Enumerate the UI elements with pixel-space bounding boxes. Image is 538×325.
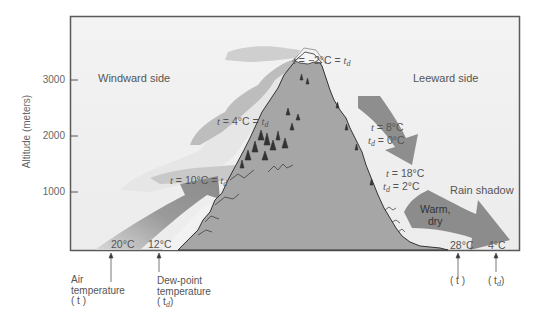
warm-dry-label-line2: dry — [428, 215, 443, 227]
leeward-upper-t-label: t = 8°C — [371, 121, 404, 134]
windward-side-label: Windward side — [98, 72, 170, 84]
windward-base-dew-point: 12°C — [148, 238, 171, 250]
level-2000-temp-label: t = 4°C = td — [217, 115, 268, 131]
air-temp-callout: Air temperature ( t ) — [71, 275, 125, 307]
leeward-lower-t-label: t = 18°C — [386, 167, 424, 180]
leeward-base-dew-point: 4°C — [488, 239, 506, 251]
rain-shadow-diagram: Altitude (meters) 3000 2000 1000 Windwar… — [0, 0, 538, 325]
leeward-upper-td-label: td = 0°C — [368, 134, 405, 150]
y-tick-1000: 1000 — [25, 186, 65, 197]
right-air-temp-callout: ( t ) — [450, 275, 465, 287]
warm-dry-label-line1: Warm, — [420, 203, 451, 215]
leeward-lower-td-label: td = 2°C — [383, 180, 420, 196]
leeward-side-label: Leeward side — [413, 72, 478, 84]
windward-base-air-temp: 20°C — [111, 238, 134, 250]
summit-temp-label: t = −2°C = td — [293, 54, 351, 70]
rain-shadow-label: Rain shadow — [450, 184, 514, 196]
y-tick-3000: 3000 — [25, 74, 65, 85]
right-dew-point-callout: ( td) — [488, 275, 504, 290]
leeward-base-air-temp: 28°C — [450, 239, 473, 251]
dew-point-callout: Dew-point temperature ( td) — [157, 276, 211, 311]
level-1000-temp-label: t = 10°C = td — [170, 174, 227, 190]
y-tick-2000: 2000 — [25, 130, 65, 141]
